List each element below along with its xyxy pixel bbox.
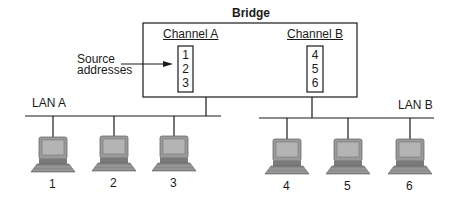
computer-label-5: 5 <box>344 180 351 193</box>
computer-label-1: 1 <box>49 178 56 191</box>
computer-label-2: 2 <box>110 177 117 190</box>
arrow-head-icon <box>163 61 173 67</box>
computer-icon-3 <box>152 136 196 171</box>
computer-icon-5 <box>326 139 370 174</box>
computer-label-3: 3 <box>170 177 177 190</box>
channel-b-addresses: 4 5 6 <box>307 48 323 90</box>
computer-label-6: 6 <box>406 180 413 193</box>
bridge-title: Bridge <box>232 7 270 20</box>
computer-label-4: 4 <box>283 180 290 193</box>
computer-icon-6 <box>388 139 432 174</box>
address: 1 <box>178 48 193 62</box>
address: 3 <box>178 76 193 90</box>
channel-a-label: Channel A <box>163 28 218 41</box>
computer-icon-1 <box>31 137 75 172</box>
computer-icon-4 <box>265 139 309 174</box>
lan-a-label: LAN A <box>32 97 66 110</box>
computer-icon-2 <box>92 136 136 171</box>
address: 5 <box>307 62 323 76</box>
address: 4 <box>307 48 323 62</box>
lan-b-label: LAN B <box>398 99 433 112</box>
address: 6 <box>307 76 323 90</box>
diagram-lines <box>0 0 459 200</box>
source-addresses-label: Source addresses <box>77 54 132 76</box>
channel-b-label: Channel B <box>287 28 343 41</box>
channel-a-addresses: 1 2 3 <box>178 48 193 90</box>
address: 2 <box>178 62 193 76</box>
